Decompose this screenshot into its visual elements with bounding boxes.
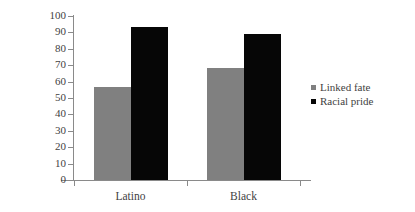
x-axis-label-latino: Latino (71, 190, 191, 202)
x-axis-line (61, 180, 311, 181)
y-axis-tick (68, 82, 74, 83)
legend-label: Racial pride (320, 94, 373, 108)
y-axis-tick (68, 98, 74, 99)
bar-latino-linked-fate (94, 87, 131, 180)
legend-label: Linked fate (320, 80, 370, 94)
y-axis-tick (68, 131, 74, 132)
y-axis-tick-label: 20 (26, 141, 66, 152)
legend-item: Racial pride (311, 94, 373, 108)
y-axis-tick-label: 30 (26, 125, 66, 136)
y-axis-tick (68, 164, 74, 165)
x-axis-tick (187, 180, 188, 186)
y-axis-tick (68, 114, 74, 115)
y-axis-tick (68, 49, 74, 50)
y-axis-tick-label: 60 (26, 76, 66, 87)
y-axis-tick-label: 10 (26, 158, 66, 169)
x-axis-tick (74, 180, 75, 186)
chart-legend: Linked fateRacial pride (311, 80, 373, 108)
y-axis-tick (68, 65, 74, 66)
y-axis-tick (68, 16, 74, 17)
y-axis-tick-label: 0 (26, 174, 66, 185)
y-axis-tick (68, 147, 74, 148)
x-axis-tick (300, 180, 301, 186)
y-axis-tick-label: 70 (26, 59, 66, 70)
y-axis-tick-label: 50 (26, 92, 66, 103)
bar-chart: Percentage 0102030405060708090100 Latino… (0, 0, 415, 212)
y-axis-tick (68, 32, 74, 33)
y-axis-tick-label: 90 (26, 26, 66, 37)
legend-swatch-icon (311, 99, 316, 104)
y-axis-tick-label: 40 (26, 108, 66, 119)
y-axis-tick-label: 100 (26, 10, 66, 21)
legend-swatch-icon (311, 85, 316, 90)
bar-latino-racial-pride (131, 27, 168, 180)
legend-item: Linked fate (311, 80, 373, 94)
y-axis-tick-label: 80 (26, 43, 66, 54)
x-axis-label-black: Black (184, 190, 304, 202)
bar-black-racial-pride (244, 34, 281, 180)
bar-black-linked-fate (207, 68, 244, 180)
